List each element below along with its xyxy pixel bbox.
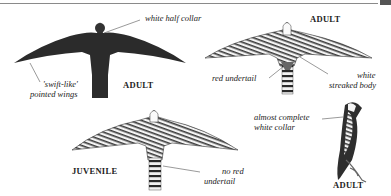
label-white-collar: white collar (254, 123, 295, 133)
label-red-undertail: red undertail (212, 74, 256, 84)
label-pointed-wings: pointed wings (30, 90, 77, 100)
adult-dark-flight-figure (14, 20, 186, 98)
label-white-half-collar: white half collar (145, 14, 201, 24)
caption-adult-2: ADULT (310, 14, 340, 24)
label-undertail: undertail (204, 177, 235, 187)
caption-adult-1: ADULT (123, 80, 153, 90)
label-streaked-body: streaked body (329, 81, 376, 91)
caption-juvenile: JUVENILE (72, 166, 117, 176)
adult-perched-figure (322, 102, 366, 182)
caption-adult-3: ADULT (333, 180, 363, 190)
